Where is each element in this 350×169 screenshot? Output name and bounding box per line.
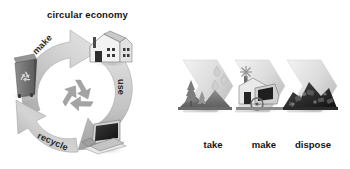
recycle-symbol-icon: [58, 80, 93, 115]
linear-economy-diagram: [177, 52, 349, 126]
linear-step-make: [234, 60, 286, 114]
circular-economy-diagram: [8, 24, 148, 162]
linear-step-label-make: make: [236, 139, 292, 150]
recycling-bin-icon: [10, 54, 40, 101]
arc-label-use: use: [116, 79, 126, 95]
linear-step-dispose: [283, 60, 340, 114]
factory-house-icon: [90, 31, 134, 68]
linear-step-label-take: take: [185, 139, 241, 150]
linear-step-label-dispose: dispose: [285, 139, 341, 150]
linear-step-take: [178, 60, 233, 114]
circular-economy-panel: circular economy: [0, 0, 175, 169]
circular-economy-title: circular economy: [0, 9, 175, 20]
linear-economy-panel: linear economy: [175, 0, 350, 169]
figure-canvas: circular economy: [0, 0, 350, 169]
